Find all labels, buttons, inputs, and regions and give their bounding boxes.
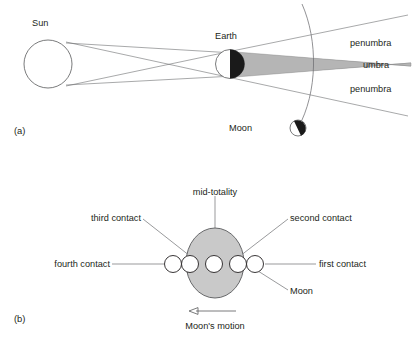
moon-position-first-contact <box>247 256 264 273</box>
panel-a-tag: (a) <box>14 125 25 136</box>
moon-label-panel-a: Moon <box>229 123 252 133</box>
moon-label-panel-b: Moon <box>290 286 313 296</box>
leader-third-contact <box>143 219 190 256</box>
eclipse-diagram: Sun Earth Moon penumbra umbra penumbra (… <box>0 0 413 346</box>
sun-body <box>24 40 72 88</box>
penumbra-top-label: penumbra <box>350 38 392 48</box>
moon-position-mid-totality <box>206 256 223 273</box>
leader-moon <box>258 271 288 290</box>
sun-label: Sun <box>32 18 48 28</box>
panel-b: mid-totality third contact second contac… <box>14 187 366 331</box>
moon-position-second-contact <box>230 256 247 273</box>
umbra-label: umbra <box>363 60 390 70</box>
leader-second-contact <box>240 219 288 256</box>
third-contact-label: third contact <box>91 213 141 223</box>
earth-body <box>216 50 245 79</box>
moon-position-third-contact <box>182 256 199 273</box>
moons-motion-arrow <box>189 308 236 315</box>
moon-position-fourth-contact <box>165 256 182 273</box>
panel-b-tag: (b) <box>14 313 25 324</box>
moon-body-panel-a <box>290 120 306 136</box>
moons-motion-label: Moon's motion <box>185 321 244 331</box>
fourth-contact-label: fourth contact <box>54 259 110 269</box>
figure-root: Sun Earth Moon penumbra umbra penumbra (… <box>0 0 413 346</box>
panel-a: Sun Earth Moon penumbra umbra penumbra (… <box>14 4 411 136</box>
penumbra-bottom-label: penumbra <box>350 84 392 94</box>
first-contact-label: first contact <box>319 259 366 269</box>
earth-label: Earth <box>215 31 237 41</box>
second-contact-label: second contact <box>290 213 352 223</box>
mid-totality-label: mid-totality <box>193 187 238 197</box>
